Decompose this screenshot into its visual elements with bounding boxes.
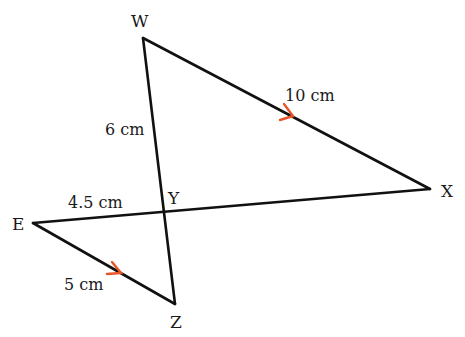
segment-ez xyxy=(33,223,175,304)
similar-triangles-diagram: W X Y E Z 10 cm 6 cm 4.5 cm 5 cm xyxy=(0,0,465,337)
length-label-wy: 6 cm xyxy=(105,120,144,139)
vertex-label-e: E xyxy=(12,214,24,234)
vertex-label-x: X xyxy=(441,181,454,201)
segment-wx xyxy=(143,38,430,189)
length-label-ey: 4.5 cm xyxy=(68,193,123,212)
vertex-label-z: Z xyxy=(170,312,182,332)
diagram-lines xyxy=(33,38,430,304)
length-label-wx: 10 cm xyxy=(285,86,335,105)
vertex-label-w: W xyxy=(131,11,149,31)
vertex-label-y: Y xyxy=(167,188,180,208)
length-label-ez: 5 cm xyxy=(64,275,103,294)
segment-wz xyxy=(143,38,175,304)
